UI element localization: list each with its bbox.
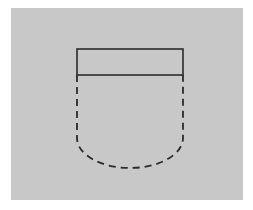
figure-background-panel bbox=[11, 8, 243, 200]
figure-canvas bbox=[0, 0, 253, 210]
geometric-figure-svg bbox=[0, 0, 253, 210]
